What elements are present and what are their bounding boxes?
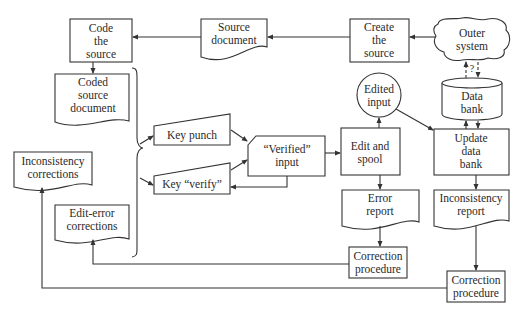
- edit-error-corrections-shape: Edit-error corrections: [55, 205, 129, 243]
- data-bank-line-1: Data: [461, 90, 483, 102]
- correction-procedure-2-box: Correction procedure: [447, 271, 505, 302]
- data-bank-line-2: bank: [461, 103, 484, 115]
- inconsistency-report-line-2: report: [457, 205, 485, 218]
- edit-and-spool-line-2: spool: [358, 153, 383, 166]
- code-the-source-line-2: the: [94, 35, 108, 47]
- inconsistency-report-shape: Inconsistency report: [434, 190, 509, 229]
- verified-input-line-1: “Verified”: [263, 143, 310, 155]
- key-verify-label: Key “verify”: [162, 178, 222, 191]
- update-data-bank-line-1: Update: [454, 132, 487, 145]
- arrow-correction-1-to-edit-error: [93, 240, 349, 264]
- arrow-key-verify-to-verified: [231, 160, 247, 170]
- coded-source-document-line-2: source: [78, 89, 108, 101]
- correction-procedure-2-line-1: Correction: [451, 274, 500, 286]
- arrow-verified-to-key-verify: [231, 176, 287, 187]
- inconsistency-report-line-1: Inconsistency: [439, 192, 502, 205]
- edit-error-corrections-line-1: Edit-error: [69, 207, 115, 219]
- coded-source-document-shape: Coded source document: [55, 74, 129, 125]
- arrow-key-punch-to-verified: [231, 130, 247, 141]
- error-report-shape: Error report: [342, 190, 419, 229]
- error-report-line-2: report: [366, 205, 394, 218]
- edited-input-circle: Edited input: [357, 73, 401, 117]
- arrow-brace-to-key-punch: [140, 136, 153, 144]
- arrow-edited-input-to-update: [396, 109, 433, 130]
- inconsistency-corrections-shape: Inconsistency corrections: [14, 152, 92, 190]
- create-the-source-line-1: Create: [364, 21, 394, 33]
- data-bank-cylinder: Data bank: [442, 78, 502, 120]
- create-the-source-line-2: the: [372, 34, 386, 46]
- edit-and-spool-line-1: Edit and: [351, 140, 390, 152]
- code-the-source-line-3: source: [86, 48, 116, 60]
- code-the-source-box: Code the source: [70, 19, 132, 62]
- key-punch-label: Key punch: [167, 129, 217, 142]
- create-the-source-line-3: source: [364, 47, 394, 59]
- edit-and-spool-box: Edit and spool: [341, 128, 400, 175]
- key-verify-shape: Key “verify”: [154, 163, 230, 194]
- update-data-bank-box: Update data bank: [434, 129, 509, 175]
- question-mark-label: ?: [470, 63, 475, 74]
- source-document-shape: Source document: [201, 19, 267, 60]
- correction-procedure-1-box: Correction procedure: [349, 247, 407, 278]
- source-document-line-2: document: [211, 34, 257, 46]
- flowchart: Code the source Source document Create t…: [0, 0, 523, 315]
- correction-procedure-1-line-2: procedure: [355, 263, 401, 276]
- inconsistency-corrections-line-1: Inconsistency: [21, 155, 84, 168]
- edited-input-line-1: Edited: [364, 83, 394, 95]
- outer-system-line-1: Outer: [459, 27, 485, 39]
- outer-system-cloud: Outer system: [434, 18, 510, 61]
- key-punch-shape: Key punch: [154, 114, 230, 145]
- error-report-line-1: Error: [368, 192, 392, 204]
- edit-error-corrections-line-2: corrections: [66, 220, 118, 232]
- create-the-source-box: Create the source: [350, 19, 409, 62]
- brace: [132, 68, 143, 257]
- update-data-bank-line-3: bank: [460, 158, 483, 170]
- correction-procedure-1-line-1: Correction: [353, 250, 402, 262]
- outer-system-line-2: system: [456, 40, 488, 53]
- edited-input-line-2: input: [367, 96, 391, 109]
- correction-procedure-2-line-2: procedure: [453, 287, 499, 300]
- arrow-brace-to-key-verify: [140, 178, 153, 185]
- verified-input-shape: “Verified” input: [248, 136, 325, 176]
- source-document-line-1: Source: [218, 21, 250, 33]
- coded-source-document-line-3: document: [70, 102, 116, 114]
- verified-input-line-2: input: [275, 156, 299, 169]
- inconsistency-corrections-line-2: corrections: [27, 168, 79, 180]
- code-the-source-line-1: Code: [89, 22, 113, 34]
- update-data-bank-line-2: data: [461, 145, 480, 157]
- coded-source-document-line-1: Coded: [78, 76, 108, 88]
